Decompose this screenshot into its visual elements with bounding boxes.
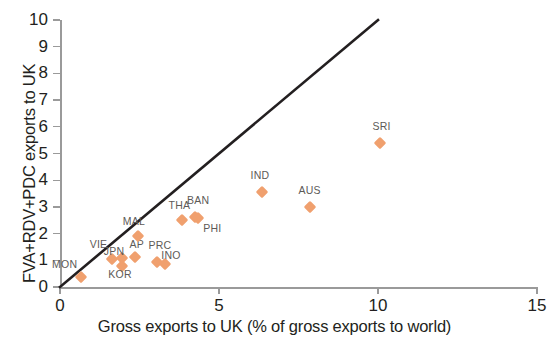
y-tick-5 (53, 153, 60, 154)
scatter-chart: 012345678910 051015 MONVIEJPNKORAPMALPRC… (0, 0, 549, 343)
point-label-mal: MAL (123, 216, 145, 227)
x-tick-0 (59, 287, 60, 294)
point-label-sri: SRI (373, 121, 391, 132)
point-label-kor: KOR (108, 269, 131, 280)
point-label-ind: IND (251, 170, 270, 181)
data-point-ind[interactable] (256, 186, 269, 199)
point-label-aus: AUS (299, 185, 321, 196)
y-tick-9 (53, 46, 60, 47)
x-tick-5 (218, 287, 219, 294)
y-tick-7 (53, 99, 60, 100)
x-tick-label-0: 0 (30, 297, 90, 314)
y-tick-8 (53, 73, 60, 74)
y-tick-3 (53, 206, 60, 207)
x-tick-label-15: 15 (507, 297, 549, 314)
x-axis-title: Gross exports to UK (% of gross exports … (0, 317, 549, 336)
y-tick-4 (53, 180, 60, 181)
y-tick-label-10: 10 (0, 11, 48, 28)
y-axis-title: FVA+RDV+PDC exports to UK (20, 64, 39, 283)
x-tick-label-5: 5 (189, 297, 249, 314)
y-tick-2 (53, 233, 60, 234)
point-label-jpn: JPN (104, 246, 124, 257)
x-axis-line (60, 287, 537, 289)
data-point-ap[interactable] (128, 251, 141, 264)
point-label-phi: PHI (203, 223, 221, 234)
x-tick-10 (377, 287, 378, 294)
point-label-ino: INO (161, 250, 180, 261)
data-point-mon[interactable] (74, 270, 87, 283)
y-tick-label-9: 9 (0, 38, 48, 55)
point-label-mon: MON (52, 259, 77, 270)
point-label-ban: BAN (187, 195, 209, 206)
y-tick-10 (53, 19, 60, 20)
x-tick-label-10: 10 (348, 297, 408, 314)
forty-five-degree-line (0, 0, 549, 343)
data-point-tha[interactable] (176, 213, 189, 226)
data-point-sri[interactable] (373, 137, 386, 150)
data-point-aus[interactable] (303, 201, 316, 214)
y-tick-6 (53, 126, 60, 127)
y-axis-line (60, 20, 62, 287)
x-tick-15 (536, 287, 537, 294)
